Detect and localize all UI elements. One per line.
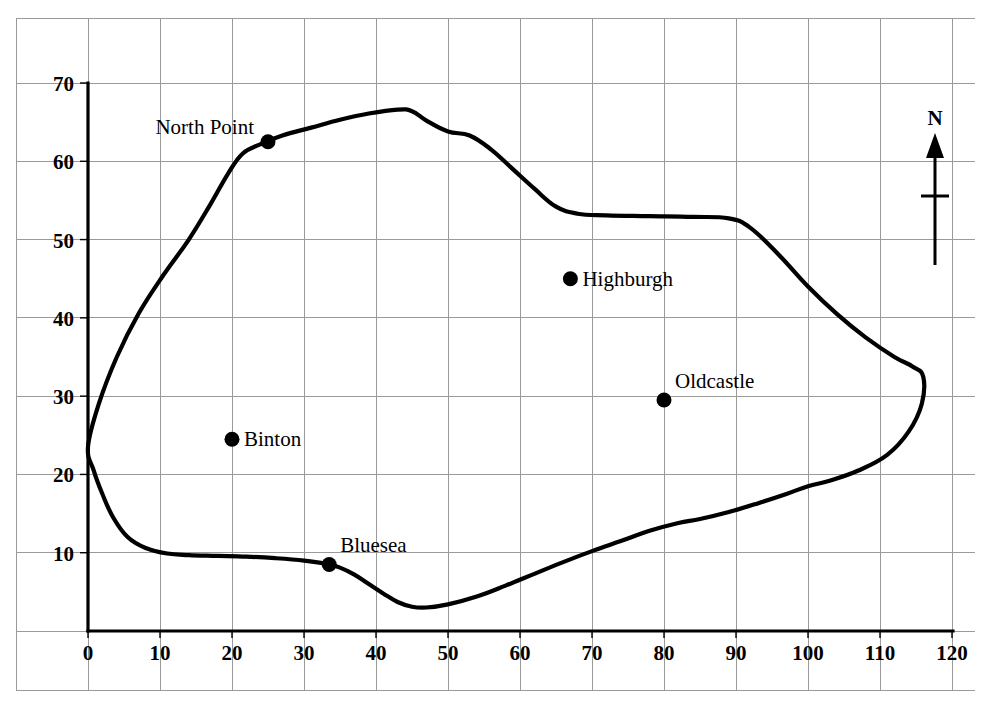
x-axis-tick-label: 20: [222, 641, 243, 665]
x-axis-tick-label: 0: [83, 641, 94, 665]
x-axis-tick-label: 60: [510, 641, 531, 665]
x-axis-tick-label: 50: [438, 641, 459, 665]
map-page: 0102030405060708090100110120102030405060…: [0, 0, 991, 704]
coastline-layer: [88, 109, 924, 607]
city-dot[interactable]: [261, 134, 276, 149]
compass-north-label: N: [927, 106, 942, 130]
x-axis-tick-label: 70: [582, 641, 603, 665]
city-dot[interactable]: [657, 393, 672, 408]
y-axis-tick-label: 20: [53, 463, 74, 487]
city-marker-group: Highburgh: [563, 267, 674, 291]
x-axis-tick-label: 90: [726, 641, 747, 665]
coastline-path: [88, 109, 924, 607]
x-axis-tick-label: 40: [366, 641, 387, 665]
y-axis-tick-label: 50: [53, 229, 74, 253]
city-marker-group: Oldcastle: [657, 369, 755, 408]
island-map-figure: 0102030405060708090100110120102030405060…: [0, 0, 991, 704]
y-axis-tick-label: 70: [53, 72, 74, 96]
x-axis-tick-label: 100: [792, 641, 824, 665]
city-dot[interactable]: [322, 557, 337, 572]
city-label: Oldcastle: [675, 369, 754, 393]
y-axis-tick-label: 40: [53, 307, 74, 331]
y-axis-tick-label: 30: [53, 385, 74, 409]
city-label: Bluesea: [340, 533, 407, 557]
x-axis-tick-label: 10: [150, 641, 171, 665]
city-label: Highburgh: [582, 267, 673, 291]
city-dot[interactable]: [225, 432, 240, 447]
x-axis-tick-label: 30: [294, 641, 315, 665]
city-label: Binton: [244, 427, 302, 451]
x-axis-tick-label: 120: [936, 641, 968, 665]
city-dot[interactable]: [563, 271, 578, 286]
compass-rose: N: [921, 106, 949, 265]
y-axis-tick-label: 10: [53, 542, 74, 566]
city-marker-group: Binton: [225, 427, 302, 451]
x-axis-tick-label: 110: [865, 641, 895, 665]
city-label: North Point: [155, 115, 254, 139]
x-axis-tick-label: 80: [654, 641, 675, 665]
y-axis-tick-label: 60: [53, 150, 74, 174]
